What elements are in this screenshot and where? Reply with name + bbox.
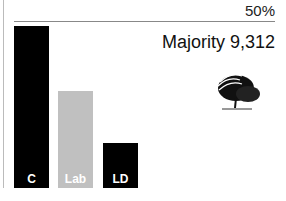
bar-label: C — [27, 172, 36, 186]
threshold-label: 50% — [245, 2, 275, 19]
conservative-tree-icon — [212, 68, 264, 114]
bar-label: LD — [113, 172, 129, 186]
bar-lab: Lab — [58, 91, 93, 188]
threshold-line-50 — [14, 21, 275, 22]
left-axis-line — [3, 0, 4, 188]
bar-ld: LD — [103, 143, 138, 188]
bar-c: C — [14, 26, 49, 188]
majority-text: Majority 9,312 — [162, 32, 275, 53]
bar-label: Lab — [65, 172, 86, 186]
